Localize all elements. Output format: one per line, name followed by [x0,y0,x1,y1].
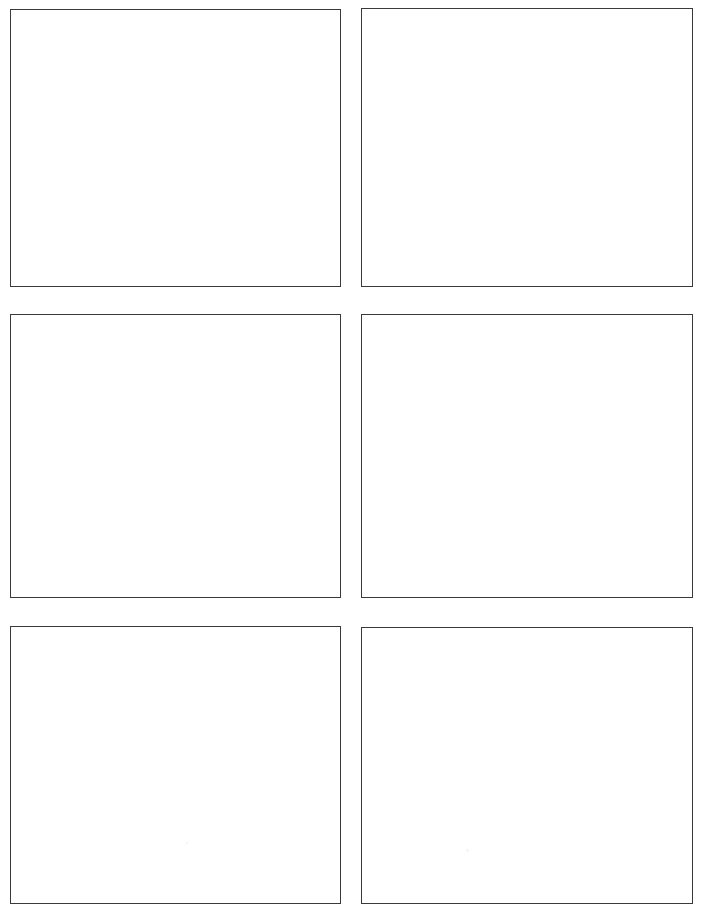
panel-row1-col1[interactable] [10,9,341,287]
panel-content-area [362,315,692,597]
panel-row2-col2[interactable] [361,314,693,598]
panel-content-area [11,10,340,286]
panel-content-area [11,315,340,597]
panel-row3-col2[interactable] [361,627,693,904]
panel-content-area [362,9,692,286]
page-canvas [0,0,702,911]
panel-row3-col1[interactable] [10,626,341,904]
panel-row2-col1[interactable] [10,314,341,598]
panel-content-area [362,628,692,903]
panel-row1-col2[interactable] [361,8,693,287]
panel-content-area [11,627,340,903]
